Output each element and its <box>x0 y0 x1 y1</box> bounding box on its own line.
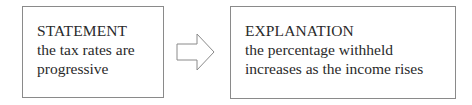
explanation-line-1: the percentage withheld <box>245 40 455 59</box>
explanation-heading: EXPLANATION <box>245 21 455 40</box>
statement-box: STATEMENT the tax rates are progressive <box>22 6 164 98</box>
statement-line-2: progressive <box>37 59 163 78</box>
right-arrow-icon <box>176 33 216 71</box>
explanation-line-2: increases as the income rises <box>245 59 455 78</box>
statement-heading: STATEMENT <box>37 21 163 40</box>
explanation-box: EXPLANATION the percentage withheld incr… <box>230 6 456 99</box>
statement-line-1: the tax rates are <box>37 40 163 59</box>
